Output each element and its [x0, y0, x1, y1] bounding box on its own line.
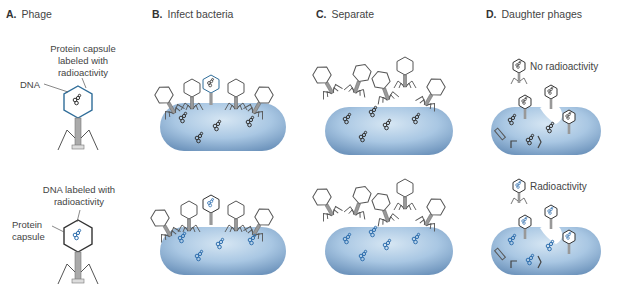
dna-label-bottom: DNA labeled with radioactivity — [34, 184, 124, 208]
radioactivity-label: Radioactivity — [530, 181, 587, 193]
capsule-label-bottom: Protein capsule — [12, 219, 45, 243]
bacterium-d-top — [491, 59, 601, 155]
bacterium-b-bottom — [146, 195, 286, 275]
phage-a-top — [44, 78, 98, 150]
no-radioactivity-label: No radioactivity — [530, 61, 598, 73]
dna-label-top: DNA — [20, 79, 40, 91]
bacterium-c-bottom — [308, 179, 453, 275]
phage-a-bottom — [52, 210, 98, 284]
bacterium-c-top — [308, 57, 453, 155]
capsule-label-top: Protein capsule labeled with radioactivi… — [38, 43, 128, 79]
bacterium-b-top — [150, 75, 286, 151]
bacterium-d-bottom — [491, 179, 601, 275]
